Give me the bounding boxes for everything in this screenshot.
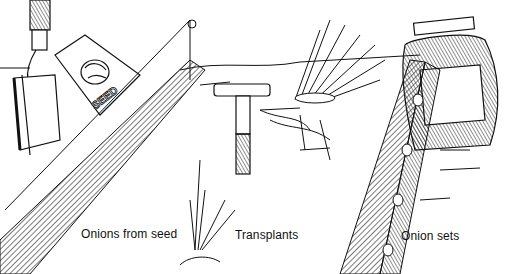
caption-onions-from-seed: Onions from seed <box>81 227 177 241</box>
seed-packet: SEED <box>55 35 140 115</box>
seedling-bundle <box>260 20 385 160</box>
caption-transplants: Transplants <box>235 228 298 242</box>
hoe <box>14 0 60 155</box>
onion-planting-illustration: SEED <box>0 0 514 274</box>
dibber <box>214 84 270 174</box>
caption-onion-sets: Onion sets <box>401 229 459 243</box>
transplanted-seedlings <box>180 160 235 265</box>
